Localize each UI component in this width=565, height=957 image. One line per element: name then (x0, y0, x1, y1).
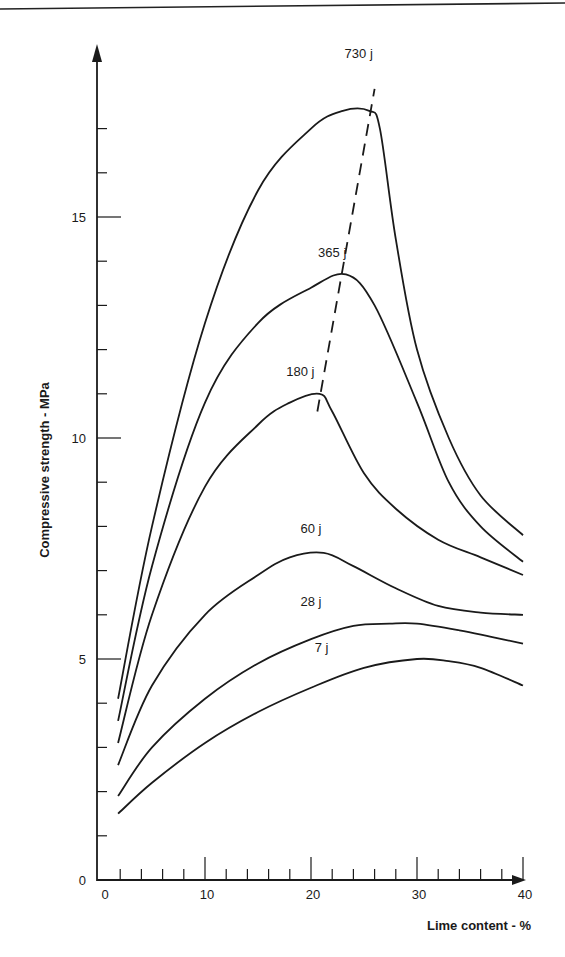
curve-label-28j: 28 j (301, 594, 322, 609)
y-tick-label: 5 (79, 652, 86, 667)
curve-7j (118, 659, 523, 814)
top-rule (0, 3, 565, 9)
y-tick-label: 10 (72, 431, 86, 446)
x-tick-label: 40 (518, 887, 532, 902)
curve-label-60j: 60 j (301, 521, 322, 536)
x-axis-arrow-icon (512, 875, 526, 885)
curve-label-730j: 730 j (345, 46, 373, 61)
curve-label-7j: 7 j (315, 640, 329, 655)
curve-label-365j: 365 j (318, 245, 346, 260)
x-tick-label: 10 (200, 887, 214, 902)
y-axis-arrow-icon (92, 44, 102, 62)
y-tick-label: 0 (79, 873, 86, 888)
x-tick-label: 0 (101, 887, 108, 902)
curve-60j (118, 552, 523, 765)
y-tick-label: 15 (72, 210, 86, 225)
curves (118, 109, 523, 814)
curve-180j (118, 394, 523, 743)
x-tick-label: 20 (306, 887, 320, 902)
curve-labels: 730 j365 j180 j60 j28 j7 j (286, 46, 373, 655)
x-axis-title: Lime content - % (427, 918, 531, 933)
axis-ticks: 051015010203040 (72, 129, 533, 902)
x-tick-label: 30 (412, 887, 426, 902)
y-axis-title: Compressive strength - MPa (37, 381, 52, 557)
curve-label-180j: 180 j (286, 364, 314, 379)
compressive-strength-chart: 051015010203040 730 j365 j180 j60 j28 j7… (0, 0, 565, 957)
